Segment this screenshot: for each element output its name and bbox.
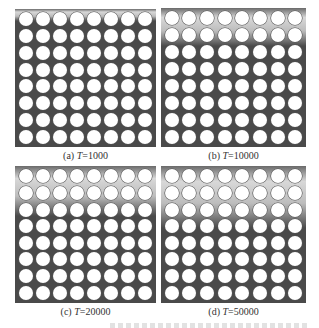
- hole-circle: [253, 219, 267, 233]
- grid-cell: [17, 78, 34, 95]
- hole-grid: [17, 168, 154, 301]
- hole-circle: [288, 252, 302, 266]
- grid-cell: [198, 61, 216, 78]
- grid-cell: [198, 235, 216, 252]
- hole-circle: [218, 186, 232, 200]
- hole-circle: [182, 28, 196, 42]
- caption-prefix: (a): [63, 150, 77, 161]
- grid-cell: [120, 201, 137, 218]
- hole-circle: [104, 219, 118, 233]
- grid-cell: [163, 218, 181, 235]
- hole-circle: [235, 286, 249, 300]
- hole-grid: [163, 10, 304, 145]
- grid-cell: [120, 112, 137, 129]
- hole-circle: [53, 29, 67, 43]
- grid-cell: [103, 45, 120, 62]
- grid-cell: [17, 235, 34, 252]
- grid-cell: [234, 61, 252, 78]
- hole-circle: [36, 63, 50, 77]
- grid-cell: [34, 45, 51, 62]
- hole-circle: [235, 96, 249, 110]
- grid-cell: [86, 201, 103, 218]
- hole-circle: [200, 269, 214, 283]
- grid-cell: [120, 45, 137, 62]
- grid-cell: [137, 185, 154, 202]
- grid-cell: [163, 128, 181, 145]
- grid-cell: [34, 112, 51, 129]
- grid-cell: [251, 284, 269, 301]
- grid-cell: [286, 128, 304, 145]
- grid-cell: [68, 201, 85, 218]
- hole-circle: [121, 203, 135, 217]
- hole-circle: [53, 96, 67, 110]
- grid-cell: [269, 111, 287, 128]
- hole-circle: [87, 79, 101, 93]
- hole-circle: [87, 219, 101, 233]
- hole-circle: [288, 236, 302, 250]
- grid-cell: [120, 28, 137, 45]
- grid-cell: [234, 201, 252, 218]
- grid-cell: [251, 78, 269, 95]
- hole-circle: [288, 203, 302, 217]
- grid-cell: [51, 284, 68, 301]
- grid-cell: [198, 201, 216, 218]
- hole-circle: [200, 236, 214, 250]
- hole-circle: [87, 286, 101, 300]
- hole-circle: [271, 186, 285, 200]
- grid-cell: [181, 185, 199, 202]
- grid-cell: [234, 251, 252, 268]
- hole-circle: [218, 113, 232, 127]
- grid-cell: [86, 45, 103, 62]
- panel-d-image: [161, 166, 306, 303]
- hole-circle: [36, 186, 50, 200]
- grid-cell: [137, 112, 154, 129]
- hole-circle: [165, 186, 179, 200]
- hole-circle: [36, 203, 50, 217]
- grid-cell: [198, 218, 216, 235]
- grid-cell: [251, 111, 269, 128]
- grid-cell: [286, 235, 304, 252]
- grid-cell: [198, 44, 216, 61]
- grid-cell: [234, 218, 252, 235]
- hole-circle: [165, 130, 179, 144]
- hole-circle: [104, 203, 118, 217]
- grid-cell: [34, 78, 51, 95]
- grid-cell: [34, 235, 51, 252]
- grid-cell: [198, 27, 216, 44]
- hole-circle: [182, 186, 196, 200]
- hole-circle: [87, 203, 101, 217]
- grid-cell: [181, 10, 199, 27]
- hole-circle: [19, 269, 33, 283]
- grid-cell: [103, 95, 120, 112]
- hole-circle: [271, 203, 285, 217]
- grid-cell: [86, 61, 103, 78]
- hole-circle: [121, 29, 135, 43]
- hole-circle: [70, 186, 84, 200]
- hole-circle: [104, 269, 118, 283]
- grid-cell: [198, 284, 216, 301]
- grid-cell: [216, 10, 234, 27]
- hole-circle: [253, 203, 267, 217]
- hole-circle: [87, 46, 101, 60]
- hole-circle: [182, 11, 196, 25]
- hole-circle: [235, 252, 249, 266]
- hole-circle: [121, 236, 135, 250]
- grid-cell: [251, 235, 269, 252]
- grid-cell: [198, 94, 216, 111]
- hole-circle: [36, 219, 50, 233]
- hole-circle: [53, 79, 67, 93]
- panel-c-image: [15, 166, 156, 303]
- hole-circle: [104, 79, 118, 93]
- hole-circle: [104, 169, 118, 183]
- hole-circle: [182, 113, 196, 127]
- hole-circle: [138, 252, 152, 266]
- grid-cell: [68, 61, 85, 78]
- grid-cell: [269, 284, 287, 301]
- hole-circle: [19, 96, 33, 110]
- hole-circle: [138, 130, 152, 144]
- grid-cell: [163, 27, 181, 44]
- hole-circle: [19, 113, 33, 127]
- hole-circle: [121, 286, 135, 300]
- hole-circle: [182, 45, 196, 59]
- grid-cell: [86, 168, 103, 185]
